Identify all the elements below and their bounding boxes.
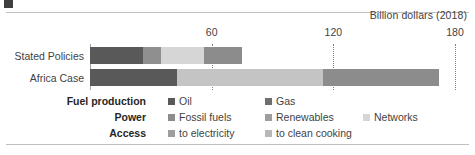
bar-segment[interactable]	[161, 47, 204, 64]
chart-figure: Billion dollars (2018) 60 120 180 Stated…	[0, 0, 475, 155]
x-tick-label-120: 120	[325, 26, 343, 38]
bar-segment[interactable]	[143, 47, 161, 64]
legend-item-label: Gas	[276, 95, 295, 107]
bar-segment[interactable]	[90, 69, 177, 86]
legend-swatch-icon	[168, 130, 175, 137]
bar-row-stated-policies[interactable]: Stated Policies	[90, 47, 455, 64]
divider-bottom	[6, 144, 469, 145]
bar-segment[interactable]	[90, 47, 143, 64]
legend-item[interactable]: to electricity	[168, 127, 234, 139]
cropped-glyph	[4, 0, 13, 8]
x-tick-label-60: 60	[206, 26, 218, 38]
legend-swatch-icon	[168, 98, 175, 105]
legend-group-label: Access	[109, 127, 146, 139]
bar-segment[interactable]	[204, 47, 243, 64]
plot-area: Stated Policies Africa Case	[0, 44, 475, 92]
legend-item[interactable]: Networks	[363, 111, 418, 123]
legend-item[interactable]: Renewables	[265, 111, 334, 123]
legend-item[interactable]: to clean cooking	[265, 127, 352, 139]
legend-item-label: Networks	[374, 111, 418, 123]
axis-unit-label: Billion dollars (2018)	[370, 9, 467, 21]
bar-segment[interactable]	[177, 69, 323, 86]
legend-swatch-icon	[265, 130, 272, 137]
bar-row-label: Africa Case	[30, 72, 84, 84]
legend-item[interactable]: Oil	[168, 95, 192, 107]
legend-swatch-icon	[168, 114, 175, 121]
legend-row-power: Power Fossil fuelsRenewablesNetworks	[0, 111, 475, 125]
bar-segment[interactable]	[323, 69, 439, 86]
legend-item-label: to electricity	[179, 127, 234, 139]
legend-item[interactable]: Gas	[265, 95, 295, 107]
legend-swatch-icon	[265, 98, 272, 105]
x-tick-label-180: 180	[446, 26, 464, 38]
legend-swatch-icon	[363, 114, 370, 121]
legend-item-label: to clean cooking	[276, 127, 352, 139]
legend-item[interactable]: Fossil fuels	[168, 111, 232, 123]
legend-swatch-icon	[265, 114, 272, 121]
legend-item-label: Fossil fuels	[179, 111, 232, 123]
legend-item-label: Renewables	[276, 111, 334, 123]
legend-row-access: Access to electricityto clean cooking	[0, 127, 475, 141]
legend: Fuel production OilGas Power Fossil fuel…	[0, 95, 475, 141]
legend-item-label: Oil	[179, 95, 192, 107]
legend-row-fuel-production: Fuel production OilGas	[0, 95, 475, 109]
gridline-180	[455, 44, 456, 90]
legend-group-label: Fuel production	[67, 95, 146, 107]
bar-row-label: Stated Policies	[15, 50, 84, 62]
legend-group-label: Power	[114, 111, 146, 123]
bar-row-africa-case[interactable]: Africa Case	[90, 69, 455, 86]
